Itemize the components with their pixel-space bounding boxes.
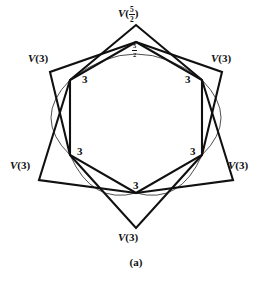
edge-label-top: 52: [132, 43, 137, 58]
vertex-label-top-close-paren: ): [135, 7, 139, 19]
paren-close: ): [45, 52, 49, 64]
spike-upper-right: [136, 42, 222, 155]
edge-label-bottom: 3: [133, 180, 139, 191]
vertex-label-upper-left: V(3): [28, 53, 48, 64]
vertex-label-lower-right: V(3): [228, 160, 248, 171]
spike-lower-right: [136, 80, 233, 193]
spike-lower-left: [39, 80, 136, 193]
vertex-label-lower-left: V(3): [10, 160, 30, 171]
paren-close: ): [27, 159, 31, 171]
edge-label-top-fraction: 52: [132, 43, 137, 58]
vertex-label-upper-right: V(3): [211, 53, 231, 64]
edge-label-upper-left: 3: [82, 74, 88, 85]
figure-container: V(52) V(3) V(3) V(3) V(3) V(3) 52 3 3 3 …: [0, 0, 272, 284]
figure-caption: (a): [0, 256, 272, 268]
paren-close: ): [245, 159, 249, 171]
paren-close: ): [228, 52, 232, 64]
spike-upper-left: [50, 42, 136, 155]
vertex-label-top-fraction: 52: [129, 6, 135, 23]
edge-label-lower-left: 3: [77, 146, 83, 157]
edge-label-upper-right: 3: [185, 74, 191, 85]
vertex-label-bottom: V(3): [118, 232, 138, 243]
vertex-label-top: V(52): [118, 6, 138, 23]
edge-label-lower-right: 3: [190, 146, 196, 157]
paren-close: ): [135, 231, 139, 243]
